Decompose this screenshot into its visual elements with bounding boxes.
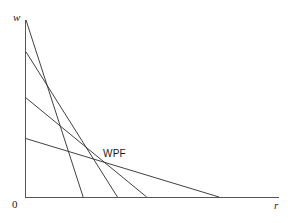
wage-profit-frontier-figure: w r 0 WPF [0, 0, 288, 223]
wage-profit-lines [26, 20, 219, 197]
wage-profit-line-2 [26, 52, 117, 197]
x-axis-label: r [274, 200, 278, 211]
axes [25, 20, 279, 198]
origin-label: 0 [12, 199, 18, 210]
wpf-annotation-label: WPF [103, 149, 126, 159]
plot-area [0, 0, 288, 223]
y-axis-label: w [13, 12, 20, 23]
wage-profit-line-1 [26, 20, 83, 197]
wage-profit-line-3 [26, 98, 147, 197]
